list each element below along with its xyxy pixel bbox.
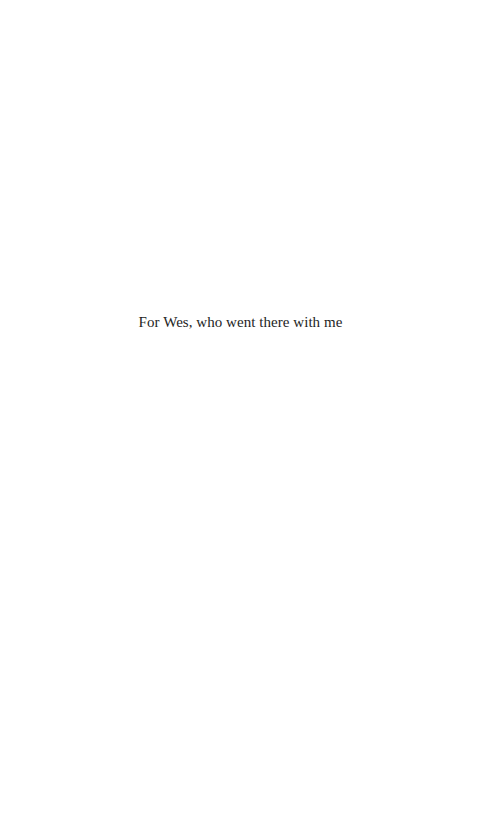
book-page: For Wes, who went there with me (0, 0, 481, 840)
dedication-text: For Wes, who went there with me (0, 314, 481, 331)
